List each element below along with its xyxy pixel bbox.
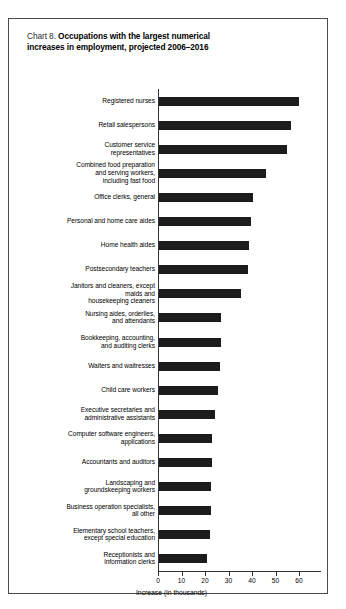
bar — [159, 434, 212, 443]
axis-tick-label: 30 — [219, 577, 239, 584]
bar — [159, 289, 241, 298]
bar — [159, 169, 266, 178]
bar — [159, 410, 215, 419]
axis-tick-label: 10 — [172, 577, 192, 584]
chart-frame: Chart 8. Occupations with the largest nu… — [8, 18, 328, 594]
bar — [159, 241, 249, 250]
category-label: Executive secretaries andadministrative … — [5, 406, 155, 421]
bar — [159, 482, 211, 491]
axis-tick-label: 50 — [266, 577, 286, 584]
axis-tick-label: 40 — [242, 577, 262, 584]
axis-tick — [182, 572, 183, 576]
category-label: Bookkeeping, accounting,and auditing cle… — [5, 334, 155, 349]
bar — [159, 265, 248, 274]
category-label: Janitors and cleaners, exceptmaids andho… — [5, 282, 155, 305]
value-axis-origin-line — [158, 89, 159, 571]
axis-tick-label: 60 — [289, 577, 309, 584]
category-axis-labels: Registered nursesRetail salespersonsCust… — [9, 89, 155, 571]
bar — [159, 97, 299, 106]
axis-tick — [252, 572, 253, 576]
bar — [159, 506, 211, 515]
bar — [159, 217, 251, 226]
bar — [159, 193, 253, 202]
axis-tick — [229, 572, 230, 576]
chart-number-label: Chart 8. — [27, 31, 56, 41]
category-label: Business operation specialists,all other — [5, 503, 155, 518]
category-label: Nursing aides, orderlies,and attendants — [5, 310, 155, 325]
category-label: Registered nurses — [5, 97, 155, 105]
bar — [159, 145, 287, 154]
bar — [159, 313, 221, 322]
axis-tick — [205, 572, 206, 576]
bar — [159, 458, 212, 467]
bar — [159, 338, 221, 347]
category-label: Combined food preparationand serving wor… — [5, 161, 155, 184]
category-label: Receptionists andinformation clerks — [5, 551, 155, 566]
axis-tick — [276, 572, 277, 576]
category-label: Postsecondary teachers — [5, 265, 155, 273]
axis-tick-label: 20 — [195, 577, 215, 584]
value-axis-title: Increase (in thousands) — [109, 589, 234, 596]
axis-tick — [299, 572, 300, 576]
chart-title-line1: Occupations with the largest numerical — [58, 31, 210, 41]
bar — [159, 121, 291, 130]
bar — [159, 554, 207, 563]
category-label: Waiters and waitresses — [5, 362, 155, 370]
axis-tick — [158, 572, 159, 576]
chart-page: Chart 8. Occupations with the largest nu… — [0, 0, 346, 609]
bar — [159, 362, 220, 371]
axis-tick-label: 0 — [148, 577, 168, 584]
category-label: Retail salespersons — [5, 121, 155, 129]
category-label: Office clerks, general — [5, 193, 155, 201]
chart-title: Chart 8. Occupations with the largest nu… — [27, 31, 311, 54]
category-label: Elementary school teachers,except specia… — [5, 527, 155, 542]
chart-title-line2: increases in employment, projected 2006–… — [27, 42, 208, 52]
category-label: Computer software engineers,applications — [5, 430, 155, 445]
category-label: Child care workers — [5, 386, 155, 394]
category-label: Customer servicerepresentatives — [5, 141, 155, 156]
bar — [159, 386, 218, 395]
plot-area — [158, 89, 328, 571]
category-label: Home health aides — [5, 241, 155, 249]
category-label: Landscaping andgroundskeeping workers — [5, 479, 155, 494]
category-label: Personal and home care aides — [5, 217, 155, 225]
bar — [159, 530, 210, 539]
category-label: Accountants and auditors — [5, 458, 155, 466]
